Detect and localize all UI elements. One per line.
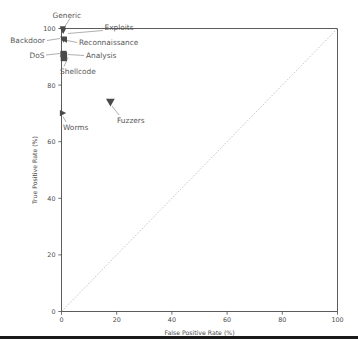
label-shellcode: Shellcode: [60, 67, 96, 76]
leader-backdoor: [47, 39, 60, 41]
leader-fuzzers: [112, 106, 119, 115]
x-tick-label: 80: [278, 316, 286, 324]
leader-dos: [46, 54, 60, 56]
label-reconnaissance: Reconnaissance: [79, 38, 139, 47]
y-tick-label: 60: [47, 138, 55, 146]
label-generic: Generic: [53, 11, 82, 20]
y-axis-tick-labels: 0 20 40 60 80 100: [43, 25, 55, 316]
marker-fuzzers[interactable]: [106, 99, 115, 107]
x-tick-label: 0: [59, 316, 63, 324]
y-axis-title: True Positive Rate (%): [31, 136, 38, 205]
x-tick-label: 60: [223, 316, 231, 324]
marker-shellcode[interactable]: [61, 55, 67, 61]
leader-exploits: [68, 31, 103, 34]
y-tick-label: 100: [43, 25, 55, 33]
leader-analysis: [68, 55, 84, 56]
x-tick-label: 100: [331, 316, 343, 324]
x-tick-label: 40: [168, 316, 176, 324]
label-backdoor: Backdoor: [10, 36, 46, 45]
plot-canvas: 0 20 40 60 80 100 0 20 40 60 80 100 Fals…: [0, 0, 358, 346]
leader-worms: [63, 117, 66, 123]
x-axis-title: False Positive Rate (%): [164, 329, 234, 336]
label-analysis: Analysis: [86, 51, 117, 60]
leader-reconnaissance: [67, 41, 77, 43]
label-fuzzers: Fuzzers: [117, 116, 145, 125]
bottom-divider-rule: [0, 336, 358, 339]
y-tick-label: 20: [47, 251, 55, 259]
label-worms: Worms: [63, 123, 89, 132]
label-dos: DoS: [30, 51, 45, 60]
x-axis-tick-labels: 0 20 40 60 80 100: [59, 316, 343, 324]
roc-scatter-figure: 0 20 40 60 80 100 0 20 40 60 80 100 Fals…: [0, 0, 358, 346]
x-axis-ticks: [62, 312, 338, 315]
chance-diagonal-line: [62, 29, 338, 312]
label-exploits: Exploits: [105, 23, 134, 32]
marker-worms[interactable]: [60, 110, 66, 116]
marker-exploits[interactable]: [60, 28, 66, 34]
y-tick-label: 40: [47, 195, 55, 203]
y-tick-label: 80: [47, 82, 55, 90]
x-tick-label: 20: [113, 316, 121, 324]
y-tick-label: 0: [51, 308, 55, 316]
